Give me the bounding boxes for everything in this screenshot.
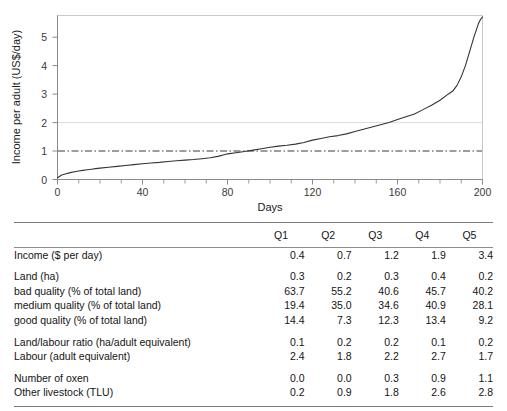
table-cell-q1: 0.1 — [258, 328, 305, 350]
table-row-label: Other livestock (TLU) — [14, 385, 258, 406]
table-header-q1: Q1 — [258, 223, 305, 248]
table-row: bad quality (% of total land)63.755.240.… — [14, 284, 493, 299]
table-cell-q4: 0.4 — [399, 262, 446, 284]
table-cell-q1: 2.4 — [258, 349, 305, 364]
table-cell-q2: 0.7 — [305, 247, 352, 262]
y-tick-label-4: 4 — [41, 60, 47, 72]
table-cell-q5: 0.2 — [446, 328, 493, 350]
table-cell-q2: 0.9 — [305, 385, 352, 406]
table-cell-q1: 0.3 — [258, 262, 305, 284]
income-line-chart: 0 1 2 3 4 5 — [0, 0, 507, 214]
x-axis-title: Days — [257, 201, 283, 213]
table-cell-q5: 28.1 — [446, 298, 493, 313]
plot-frame — [58, 16, 483, 180]
table-row: good quality (% of total land)14.47.312.… — [14, 313, 493, 328]
table-cell-q4: 13.4 — [399, 313, 446, 328]
table-cell-q5: 0.2 — [446, 262, 493, 284]
x-tick-label-80: 80 — [222, 186, 234, 198]
table-cell-q2: 35.0 — [305, 298, 352, 313]
table-cell-q1: 14.4 — [258, 313, 305, 328]
table-cell-q5: 1.7 — [446, 349, 493, 364]
y-axis-ticks: 0 1 2 3 4 5 — [41, 31, 57, 185]
table-cell-q1: 63.7 — [258, 284, 305, 299]
table-cell-q2: 55.2 — [305, 284, 352, 299]
table-header-q3: Q3 — [352, 223, 399, 248]
y-tick-label-3: 3 — [41, 88, 47, 100]
table-cell-q3: 0.3 — [352, 364, 399, 386]
x-axis-minor-ticks — [79, 180, 462, 184]
y-axis-title: Income per adult (US$/day) — [10, 30, 22, 165]
table-cell-q4: 0.9 — [399, 364, 446, 386]
table-cell-q4: 1.9 — [399, 247, 446, 262]
table-cell-q4: 40.9 — [399, 298, 446, 313]
table-row: Labour (adult equivalent)2.41.82.22.71.7 — [14, 349, 493, 364]
table-row: Other livestock (TLU)0.20.91.82.62.8 — [14, 385, 493, 406]
y-tick-label-0: 0 — [41, 174, 47, 186]
x-tick-label-0: 0 — [55, 186, 61, 198]
table-header-blank — [14, 223, 258, 248]
table-header-q4: Q4 — [399, 223, 446, 248]
table-body: Income ($ per day)0.40.71.21.93.4Land (h… — [14, 247, 493, 406]
x-tick-label-200: 200 — [474, 186, 492, 198]
quintile-table: Q1 Q2 Q3 Q4 Q5 Income ($ per day)0.40.71… — [14, 222, 493, 407]
table-cell-q3: 12.3 — [352, 313, 399, 328]
table-cell-q4: 2.6 — [399, 385, 446, 406]
x-tick-label-40: 40 — [137, 186, 149, 198]
table-row: medium quality (% of total land)19.435.0… — [14, 298, 493, 313]
table-cell-q1: 0.0 — [258, 364, 305, 386]
table-cell-q3: 2.2 — [352, 349, 399, 364]
table-row-label: medium quality (% of total land) — [14, 298, 258, 313]
chart-figure: 0 1 2 3 4 5 — [0, 0, 507, 214]
table-row: Number of oxen0.00.00.30.91.1 — [14, 364, 493, 386]
table-cell-q1: 0.4 — [258, 247, 305, 262]
y-tick-label-2: 2 — [41, 117, 47, 129]
table-cell-q5: 40.2 — [446, 284, 493, 299]
quintile-table-block: Q1 Q2 Q3 Q4 Q5 Income ($ per day)0.40.71… — [0, 214, 507, 411]
table-cell-q3: 0.3 — [352, 262, 399, 284]
table-cell-q4: 2.7 — [399, 349, 446, 364]
table-cell-q3: 0.2 — [352, 328, 399, 350]
table-row-label: bad quality (% of total land) — [14, 284, 258, 299]
table-cell-q5: 1.1 — [446, 364, 493, 386]
table-cell-q2: 0.0 — [305, 364, 352, 386]
table-cell-q3: 1.8 — [352, 385, 399, 406]
table-header-row: Q1 Q2 Q3 Q4 Q5 — [14, 223, 493, 248]
table-cell-q5: 2.8 — [446, 385, 493, 406]
table-row-label: Land/labour ratio (ha/adult equivalent) — [14, 328, 258, 350]
table-row-label: Income ($ per day) — [14, 247, 258, 262]
table-cell-q3: 1.2 — [352, 247, 399, 262]
table-row-label: Labour (adult equivalent) — [14, 349, 258, 364]
y-tick-label-5: 5 — [41, 31, 47, 43]
table-cell-q1: 19.4 — [258, 298, 305, 313]
table-header-q5: Q5 — [446, 223, 493, 248]
table-cell-q2: 1.8 — [305, 349, 352, 364]
table-cell-q2: 0.2 — [305, 262, 352, 284]
table-row: Land/labour ratio (ha/adult equivalent)0… — [14, 328, 493, 350]
x-axis-ticks: 0 40 80 120 160 200 — [55, 180, 492, 199]
table-cell-q2: 0.2 — [305, 328, 352, 350]
table-cell-q3: 34.6 — [352, 298, 399, 313]
table-cell-q5: 3.4 — [446, 247, 493, 262]
table-cell-q4: 45.7 — [399, 284, 446, 299]
table-header-q2: Q2 — [305, 223, 352, 248]
table-cell-q5: 9.2 — [446, 313, 493, 328]
table-cell-q2: 7.3 — [305, 313, 352, 328]
table-row: Land (ha)0.30.20.30.40.2 — [14, 262, 493, 284]
table-row: Income ($ per day)0.40.71.21.93.4 — [14, 247, 493, 262]
table-row-label: good quality (% of total land) — [14, 313, 258, 328]
table-row-label: Number of oxen — [14, 364, 258, 386]
table-cell-q3: 40.6 — [352, 284, 399, 299]
x-tick-label-120: 120 — [304, 186, 322, 198]
table-cell-q4: 0.1 — [399, 328, 446, 350]
table-cell-q1: 0.2 — [258, 385, 305, 406]
y-tick-label-1: 1 — [41, 145, 47, 157]
x-tick-label-160: 160 — [389, 186, 407, 198]
table-row-label: Land (ha) — [14, 262, 258, 284]
